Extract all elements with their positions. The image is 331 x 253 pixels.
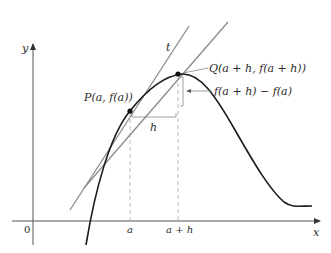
rise-label: f(a + h) − f(a) xyxy=(213,85,292,98)
rise-leader-arrow-icon xyxy=(186,89,191,93)
y-axis-label: y xyxy=(21,42,29,55)
tangent-line xyxy=(70,26,189,210)
point-p xyxy=(127,108,132,113)
point-q-label: Q(a + h, f(a + h)) xyxy=(209,62,306,75)
origin-label: 0 xyxy=(24,224,30,235)
tangent-label: t xyxy=(166,41,171,54)
rise-bracket xyxy=(180,77,183,106)
x-axis-label: x xyxy=(313,226,320,239)
h-bracket xyxy=(132,113,176,117)
x-tick-a-plus-h: a + h xyxy=(166,224,193,235)
point-p-label: P(a, f(a)) xyxy=(83,91,133,104)
h-label: h xyxy=(150,121,157,134)
secant-tangent-diagram: y x 0 a a + h P(a, f(a)) Q(a + h, f(a + … xyxy=(0,0,331,253)
x-tick-a: a xyxy=(127,224,133,235)
point-q xyxy=(175,71,180,76)
dashed-guides xyxy=(130,76,178,221)
